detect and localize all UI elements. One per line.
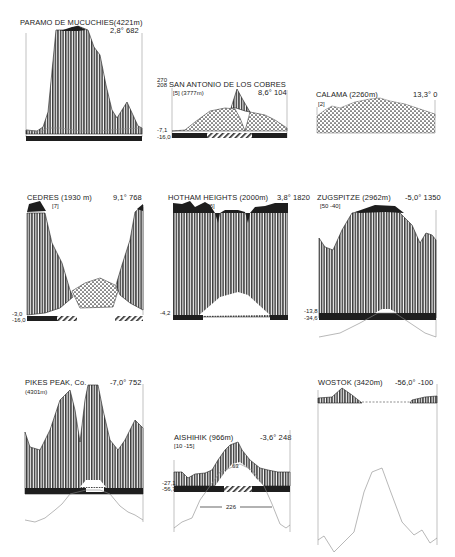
left-label: -16,0 [12,317,26,323]
climate-panel-wostok: WOSTOK (3420m) -56,0° -100 [300,370,455,557]
climate-panel-aishihik: AISHIHIK (966m) [10 -15] -3,6° 248 63 22… [160,400,310,557]
climate-diagram: CALAMA (2260m) [2] 13,3° 0 [300,80,455,160]
left-label: -56,7 [162,486,176,492]
left-label: -34,6 [304,315,318,321]
climate-panel-calama: CALAMA (2260m) [2] 13,3° 0 [300,80,455,160]
station-stats: 2,8° 682 [110,26,139,35]
climate-diagram: HOTHAM HEIGHTS (2000m) [6] 3,8° 1820 -4,… [160,185,310,330]
station-years-elevation: [5] (3777m) [173,90,204,96]
station-title: CALAMA (2260m) [316,90,378,99]
station-stats: 8,6° 104 [258,88,287,97]
climate-diagram: AISHIHIK (966m) [10 -15] -3,6° 248 63 22… [160,400,310,557]
station-years: [7] [52,203,59,209]
station-stats: 9,1° 768 [113,193,142,202]
climate-panel-cedres: CEDRES (1930 m) [7] 9,1° 768 -3,0 -16,0 [0,185,160,330]
station-years: [50 -40] [320,203,341,209]
station-years: [2] [318,101,325,107]
station-stats: -56,0° -100 [395,378,433,387]
annotation: 226 [226,504,237,510]
climate-diagram: PIKES PEAK, Co. (4301m) -7,0° 752 [0,370,160,530]
station-years: [10 -15] [174,443,195,449]
climate-diagram: ZUGSPITZE (2962m) [50 -40] -5,0° 1350 -1… [300,185,455,365]
climate-panel-hotham-heights: HOTHAM HEIGHTS (2000m) [6] 3,8° 1820 -4,… [160,185,310,330]
left-label: -4,2 [160,310,171,316]
station-stats: 13,3° 0 [413,90,438,99]
climate-diagram: WOSTOK (3420m) -56,0° -100 [300,370,455,557]
station-title: HOTHAM HEIGHTS (2000m) [168,193,269,202]
station-stats: -7,0° 752 [110,378,141,387]
climate-diagram: 270 208 SAN ANTONIO DE LOS COBRES [5] (3… [155,70,310,155]
station-title: AISHIHIK (966m) [174,433,234,442]
climate-panel-san-antonio-de-los-cobres: 270 208 SAN ANTONIO DE LOS COBRES [5] (3… [155,70,310,155]
station-title: ZUGSPITZE (2962m) [317,193,391,202]
left-label: -13,8 [304,308,318,314]
station-title: CEDRES (1930 m) [27,193,92,202]
climate-diagram: PARAMO DE MUCUCHIES(4221m) 2,8° 682 [0,0,160,150]
station-stats: -3,6° 248 [260,433,291,442]
station-title: WOSTOK (3420m) [318,378,383,387]
left-label: -16,0 [157,134,171,140]
station-stats: -5,0° 1350 [405,193,441,202]
climate-panel-zugspitze: ZUGSPITZE (2962m) [50 -40] -5,0° 1350 -1… [300,185,455,365]
left-label: 208 [157,82,168,88]
station-elevation: (4301m) [25,389,47,395]
climate-panel-paramo-de-mucuchies: PARAMO DE MUCUCHIES(4221m) 2,8° 682 [0,0,160,150]
climate-diagram: CEDRES (1930 m) [7] 9,1° 768 -3,0 -16,0 [0,185,160,330]
station-title: PIKES PEAK, Co. [25,378,87,387]
left-label: -7,1 [157,127,168,133]
climate-panel-pikes-peak: PIKES PEAK, Co. (4301m) -7,0° 752 [0,370,160,530]
